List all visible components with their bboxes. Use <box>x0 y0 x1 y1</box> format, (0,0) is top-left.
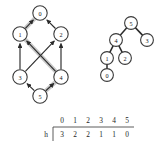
tree-node-2: 2 <box>119 52 132 65</box>
table-col-header-2: 2 <box>86 116 90 125</box>
table-col-header-3: 3 <box>99 116 103 125</box>
dag-node-4: 4 <box>54 70 68 84</box>
dag-edge-2-0 <box>47 20 56 29</box>
table-cell-h-1: 2 <box>73 130 77 139</box>
table-cell-h-3: 1 <box>99 130 103 139</box>
tree-node-4: 4 <box>110 34 123 47</box>
dag-edge-5-3 <box>27 84 34 91</box>
table-cell-h-0: 3 <box>60 130 64 139</box>
dag-node-label-3: 3 <box>18 74 21 81</box>
dag-node-label-0: 0 <box>38 10 41 17</box>
dag-node-3: 3 <box>13 70 27 84</box>
table-col-header-5: 5 <box>125 116 129 125</box>
dag-node-5: 5 <box>33 89 47 103</box>
table-col-header-0: 0 <box>60 116 64 125</box>
tree-node-layer: 543120 <box>101 17 154 82</box>
tree-node-1: 1 <box>101 52 114 65</box>
dag-node-2: 2 <box>54 27 68 41</box>
tree-edge-5-4 <box>120 27 127 35</box>
dag-node-label-2: 2 <box>59 31 62 38</box>
figure-svg: 012345 543120 012345h322110 <box>0 0 164 152</box>
tree-node-5: 5 <box>125 17 138 30</box>
table-col-header-1: 1 <box>73 116 77 125</box>
tree-node-label-4: 4 <box>114 37 117 44</box>
dag-node-label-1: 1 <box>18 31 21 38</box>
table-cell-h-4: 1 <box>112 130 116 139</box>
dag-highlight-layer <box>24 17 56 91</box>
dag-node-label-5: 5 <box>38 93 41 100</box>
tree-node-label-3: 3 <box>145 37 148 44</box>
tree-node-label-2: 2 <box>123 55 126 62</box>
table-row-label: h <box>44 130 48 139</box>
tree-edge-5-3 <box>135 27 143 35</box>
tree-node-label-1: 1 <box>105 55 108 62</box>
table-col-header-4: 4 <box>112 116 116 125</box>
dag-edge-4-1 <box>27 41 56 71</box>
table-cell-h-5: 0 <box>125 130 129 139</box>
table-cell-h-2: 2 <box>86 130 90 139</box>
dag-node-1: 1 <box>13 27 27 41</box>
dag-node-label-4: 4 <box>59 74 62 81</box>
tree-node-3: 3 <box>141 34 154 47</box>
tree-node-0: 0 <box>101 69 114 82</box>
tree-node-label-5: 5 <box>129 20 132 27</box>
tree-edge-4-1 <box>110 45 114 52</box>
tree-node-label-0: 0 <box>105 72 108 79</box>
figure-canvas: 012345 543120 012345h322110 <box>0 0 164 152</box>
dag-node-0: 0 <box>33 6 47 20</box>
tree-edge-4-2 <box>119 45 123 52</box>
height-table: 012345h322110 <box>44 116 134 142</box>
